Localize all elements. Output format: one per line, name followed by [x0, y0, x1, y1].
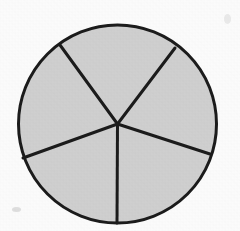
spoke-bottom	[117, 124, 118, 223]
pie-diagram	[0, 0, 240, 231]
figure-container: Circle divided into five sectors A shade…	[0, 0, 240, 231]
